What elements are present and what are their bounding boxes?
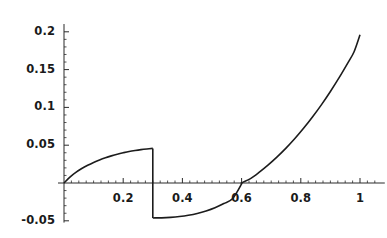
y-tick-label-0.1: 0.1 [0, 99, 55, 113]
y-tick-label-0.15: 0.15 [0, 62, 55, 76]
x-tick-label-1: 1 [330, 191, 387, 205]
x-tick-label-0.6: 0.6 [212, 191, 272, 205]
y-tick-label-0.05: 0.05 [0, 137, 55, 151]
series-curve-rising-arc-segment [64, 148, 153, 183]
y-tick-label-0.2: 0.2 [0, 24, 55, 38]
x-tick-label-0.2: 0.2 [93, 191, 153, 205]
x-tick-label-0.8: 0.8 [271, 191, 331, 205]
x-axis-ticks [71, 178, 374, 183]
plot-figure: 0.20.40.60.81 0.20.150.10.05-0.05 [0, 0, 387, 238]
y-tick-label--0.05: -0.05 [0, 213, 55, 227]
x-tick-label-0.4: 0.4 [152, 191, 212, 205]
y-axis-ticks [64, 32, 69, 221]
